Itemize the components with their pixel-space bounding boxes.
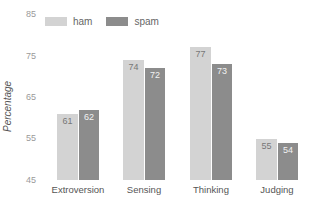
bar-spam-thinking: 73 xyxy=(212,64,232,180)
bar-chart: 85 75 65 55 45 Percentage ham spam 61 62… xyxy=(0,0,313,205)
legend-label-spam: spam xyxy=(134,16,158,27)
bar-ham-thinking: 77 xyxy=(190,47,211,180)
xtick-sensing: Sensing xyxy=(109,184,179,195)
bar-value: 55 xyxy=(256,141,277,151)
bar-value: 73 xyxy=(212,66,232,76)
bar-ham-extroversion: 61 xyxy=(57,114,78,180)
bar-value: 54 xyxy=(278,145,298,155)
ytick-85: 85 xyxy=(26,9,36,19)
ytick-65: 65 xyxy=(26,92,36,102)
ytick-75: 75 xyxy=(26,51,36,61)
bar-value: 72 xyxy=(145,70,165,80)
bar-ham-judging: 55 xyxy=(256,139,277,180)
xtick-thinking: Thinking xyxy=(176,184,246,195)
bar-value: 61 xyxy=(57,116,78,126)
legend-item-spam: spam xyxy=(106,16,158,27)
bar-value: 62 xyxy=(79,112,99,122)
legend-swatch-ham xyxy=(45,17,67,26)
legend-item-ham: ham xyxy=(45,16,92,27)
legend-swatch-spam xyxy=(106,17,128,26)
y-axis-label: Percentage xyxy=(2,81,13,132)
xtick-extroversion: Extroversion xyxy=(43,184,113,195)
bar-value: 74 xyxy=(123,62,144,72)
bar-ham-sensing: 74 xyxy=(123,60,144,180)
bar-value: 77 xyxy=(190,49,211,59)
bar-spam-sensing: 72 xyxy=(145,68,165,180)
legend-label-ham: ham xyxy=(73,16,92,27)
bar-spam-extroversion: 62 xyxy=(79,110,99,180)
ytick-45: 45 xyxy=(26,175,36,185)
legend: ham spam xyxy=(45,16,173,27)
ytick-55: 55 xyxy=(26,133,36,143)
bar-spam-judging: 54 xyxy=(278,143,298,180)
xtick-judging: Judging xyxy=(242,184,312,195)
